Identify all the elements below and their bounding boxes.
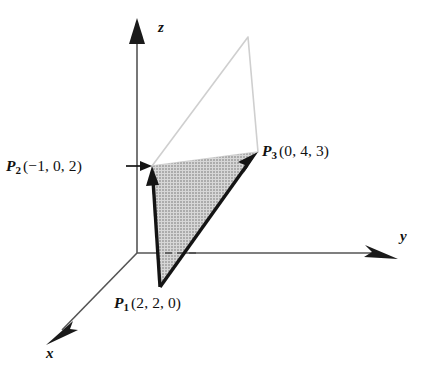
x-axis-label: x — [46, 345, 54, 362]
diagram-canvas — [0, 0, 421, 374]
y-axis-arrowhead-icon — [364, 245, 398, 259]
point-name-p1: P — [114, 294, 124, 311]
z-axis — [129, 18, 145, 253]
point-name-p3: P — [262, 142, 272, 159]
point-label-p3: P3(0, 4, 3) — [262, 142, 329, 161]
point-coords-p2: (−1, 0, 2) — [23, 157, 82, 174]
point-coords-p1: (2, 2, 0) — [131, 294, 181, 311]
z-axis-label: z — [158, 19, 164, 36]
light-parallelogram-region — [152, 37, 258, 166]
point-name-p2: P — [6, 157, 16, 174]
x-axis-line — [62, 253, 137, 330]
z-axis-arrowhead-icon — [129, 18, 145, 44]
point-coords-p3: (0, 4, 3) — [279, 142, 329, 159]
point-subscript-p3: 3 — [272, 149, 278, 161]
point-subscript-p1: 1 — [124, 301, 130, 313]
point-label-p2: P2(−1, 0, 2) — [6, 157, 82, 176]
vector-diagram-figure: P2(−1, 0, 2) P3(0, 4, 3) P1(2, 2, 0) z y… — [0, 0, 421, 374]
point-subscript-p2: 2 — [16, 164, 22, 176]
point-label-p1: P1(2, 2, 0) — [114, 294, 181, 313]
y-axis-label: y — [400, 228, 407, 245]
p2-leader-arrow — [126, 161, 152, 171]
x-axis-arrowhead-icon — [46, 321, 78, 345]
p2-leader-arrowhead-icon — [140, 161, 152, 171]
light-triangle-outline — [152, 37, 258, 166]
